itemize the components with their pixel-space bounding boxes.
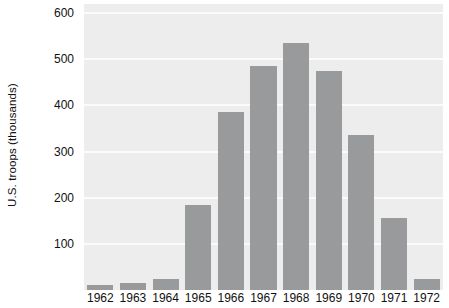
y-axis-tick-label: 500 — [54, 52, 74, 66]
x-axis-tick-label: 1970 — [348, 291, 375, 305]
x-axis-tick-label: 1965 — [185, 291, 212, 305]
y-axis-tick-label: 300 — [54, 145, 74, 159]
x-axis-tick-label: 1963 — [120, 291, 147, 305]
y-axis-tick-label: 200 — [54, 191, 74, 205]
bar-1963 — [120, 283, 146, 290]
bar-1969 — [316, 71, 342, 290]
x-axis-tick-label: 1972 — [413, 291, 440, 305]
bar-1972 — [414, 279, 440, 290]
bar-1967 — [250, 66, 276, 290]
bar-1968 — [283, 43, 309, 290]
bar-1965 — [185, 205, 211, 290]
y-axis-title: U.S. troops (thousands) — [0, 0, 24, 290]
x-axis-tick-label: 1971 — [381, 291, 408, 305]
x-axis-tick-label: 1962 — [87, 291, 114, 305]
bars-layer — [84, 4, 443, 290]
bar-1964 — [153, 279, 179, 290]
y-axis-tick-labels: 100200300400500600 — [26, 0, 78, 290]
y-axis-title-label: U.S. troops (thousands) — [6, 83, 18, 207]
x-axis-tick-labels: 1962196319641965196619671968196919701971… — [84, 291, 443, 308]
bar-1970 — [348, 135, 374, 290]
x-axis-tick-label: 1969 — [315, 291, 342, 305]
x-axis-tick-label: 1966 — [218, 291, 245, 305]
bar-1966 — [218, 112, 244, 290]
plot-area — [84, 4, 443, 290]
x-axis-tick-label: 1964 — [152, 291, 179, 305]
y-axis-tick-label: 400 — [54, 98, 74, 112]
y-axis-tick-label: 600 — [54, 6, 74, 20]
y-axis-tick-label: 100 — [54, 237, 74, 251]
bar-1962 — [87, 285, 113, 290]
x-axis-tick-label: 1967 — [250, 291, 277, 305]
x-axis-tick-label: 1968 — [283, 291, 310, 305]
bar-1971 — [381, 218, 407, 290]
bar-chart-figure: U.S. troops (thousands) 1002003004005006… — [0, 0, 449, 308]
